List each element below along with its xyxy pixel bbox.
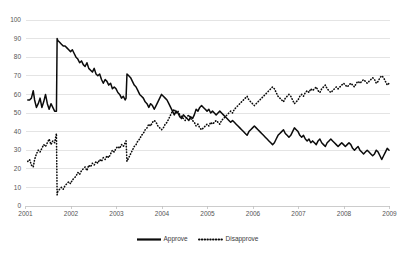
y-tick-label: 60	[14, 91, 22, 98]
x-tick-label: 2004	[155, 210, 170, 217]
y-tick-label: 40	[14, 128, 22, 135]
x-tick-label: 2002	[64, 210, 79, 217]
y-tick-label: 30	[14, 146, 22, 153]
y-tick-label: 100	[10, 16, 21, 23]
x-tick-label: 2001	[18, 210, 33, 217]
y-tick-label: 80	[14, 53, 22, 60]
legend-label-approve: Approve	[164, 235, 189, 243]
x-tick-label: 2003	[109, 210, 124, 217]
x-axis-tick-labels: 200120022003200420052006200720082009	[18, 210, 397, 217]
x-tick-label: 2007	[291, 210, 306, 217]
y-tick-label: 90	[14, 35, 22, 42]
x-tick-label: 2009	[382, 210, 397, 217]
y-tick-label: 20	[14, 165, 22, 172]
x-tick-label: 2005	[200, 210, 215, 217]
y-tick-label: 0	[17, 202, 21, 209]
chart-container: 0102030405060708090100 20012002200320042…	[0, 0, 408, 258]
approval-line-chart: 0102030405060708090100 20012002200320042…	[0, 0, 408, 258]
x-tick-label: 2006	[246, 210, 261, 217]
y-tick-label: 70	[14, 72, 22, 79]
y-tick-label: 10	[14, 184, 22, 191]
y-tick-label: 50	[14, 109, 22, 116]
legend-label-disapprove: Disapprove	[226, 235, 259, 243]
x-tick-label: 2008	[337, 210, 352, 217]
